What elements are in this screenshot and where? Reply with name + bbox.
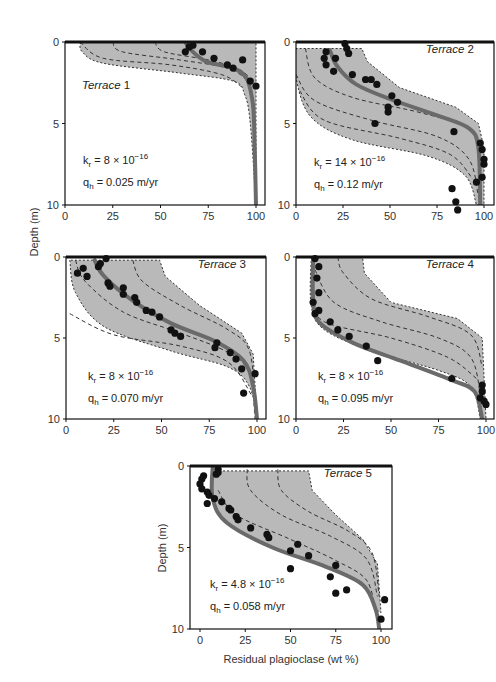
x-tick-label: 0	[197, 634, 203, 646]
qh-parameter: qh = 0.025 m/yr	[83, 176, 158, 191]
panel-terrace-5: 05100255075100Terrace 5kr = 4.8 × 10−16q…	[172, 460, 392, 646]
data-point	[287, 565, 294, 572]
x-tick-label: 100	[475, 210, 493, 222]
x-tick-label: 25	[337, 424, 349, 436]
data-point	[479, 388, 486, 395]
data-point	[310, 299, 317, 306]
data-point	[385, 108, 392, 115]
y-tick-label: 10	[278, 413, 290, 425]
panel-title: Terrace 3	[198, 258, 246, 270]
data-point	[321, 55, 328, 62]
data-point	[238, 365, 245, 372]
data-point	[186, 43, 193, 50]
figure-canvas: 05100255075100Terrace 1kr = 8 × 10−16qh …	[0, 0, 496, 682]
data-point	[388, 92, 395, 99]
x-tick-label: 50	[155, 424, 167, 436]
x-tick-label: 50	[384, 210, 396, 222]
x-tick-label: 25	[239, 634, 251, 646]
x-tick-label: 0	[293, 424, 299, 436]
data-point	[251, 370, 258, 377]
data-point	[327, 573, 334, 580]
panel-title: Terrace 5	[324, 467, 372, 479]
data-point	[247, 78, 254, 85]
data-point	[363, 343, 370, 350]
data-point	[311, 310, 318, 317]
data-point	[80, 265, 87, 272]
kr-parameter: kr = 8 × 10−16	[318, 368, 384, 385]
y-tick-label: 5	[54, 332, 60, 344]
data-point	[227, 349, 234, 356]
panel-terrace-1: 05100255075100Terrace 1kr = 8 × 10−16qh …	[47, 36, 265, 222]
kr-parameter: kr = 4.8 × 10−16	[210, 576, 285, 593]
data-point	[394, 99, 401, 106]
panel5-depth-axis-label: Depth (m)	[156, 524, 168, 573]
qh-parameter: qh = 0.058 m/yr	[210, 600, 285, 615]
data-point	[120, 284, 127, 291]
data-point	[454, 206, 461, 213]
data-point	[450, 128, 457, 135]
data-point	[199, 48, 206, 55]
data-point	[211, 344, 218, 351]
data-point	[83, 273, 90, 280]
data-point	[204, 500, 211, 507]
data-point	[377, 616, 384, 623]
data-point	[211, 495, 218, 502]
y-tick-label: 5	[284, 118, 290, 130]
y-tick-label: 5	[284, 332, 290, 344]
x-tick-label: 25	[108, 424, 120, 436]
data-point	[294, 541, 301, 548]
panel-title: Terrace 2	[426, 43, 474, 55]
data-point	[332, 55, 339, 62]
data-point	[373, 81, 380, 88]
data-point	[210, 55, 217, 62]
data-point	[343, 586, 350, 593]
y-tick-label: 10	[47, 199, 59, 211]
kr-parameter: kr = 8 × 10−16	[88, 368, 154, 385]
data-point	[148, 308, 155, 315]
data-point	[213, 471, 220, 478]
panel-terrace-3: 05100255075100Terrace 3kr = 8 × 10−16qh …	[48, 251, 266, 436]
data-point	[448, 185, 455, 192]
y-tick-label: 10	[278, 199, 290, 211]
data-point	[322, 61, 329, 68]
panel-title: Terrace 4	[426, 258, 475, 270]
x-tick-label: 100	[247, 210, 265, 222]
x-tick-label: 0	[293, 210, 299, 222]
x-axis-label: Residual plagioclase (wt %)	[223, 653, 358, 665]
data-point	[265, 534, 272, 541]
data-point	[381, 596, 388, 603]
data-point	[106, 283, 113, 290]
x-tick-label: 0	[62, 210, 68, 222]
x-tick-label: 75	[330, 634, 342, 646]
panel-title: Terrace 1	[82, 79, 130, 91]
data-point	[120, 291, 127, 298]
kr-parameter: kr = 8 × 10−16	[83, 152, 149, 169]
x-tick-label: 100	[372, 634, 390, 646]
model-envelope	[295, 49, 484, 206]
data-point	[479, 146, 486, 153]
data-point	[95, 263, 102, 270]
data-point	[448, 375, 455, 382]
data-point	[239, 56, 246, 63]
x-tick-label: 75	[203, 424, 215, 436]
data-point	[74, 270, 81, 277]
data-point	[234, 516, 241, 523]
data-point	[327, 318, 334, 325]
data-point	[227, 506, 234, 513]
data-point	[177, 333, 184, 340]
data-point	[371, 120, 378, 127]
data-point	[473, 179, 480, 186]
x-tick-label: 75	[431, 210, 443, 222]
x-tick-label: 100	[248, 424, 266, 436]
x-tick-label: 50	[284, 634, 296, 646]
data-point	[479, 381, 486, 388]
data-point	[332, 562, 339, 569]
data-point	[240, 389, 247, 396]
panel-terrace-2: 05100255075100Terrace 2kr = 14 × 10−16qh…	[278, 36, 494, 222]
y-tick-label: 10	[48, 413, 60, 425]
x-tick-label: 50	[385, 424, 397, 436]
qh-parameter: qh = 0.12 m/yr	[314, 178, 383, 193]
y-tick-label: 0	[178, 460, 184, 472]
panel-terrace-4: 05100255075100Terrace 4kr = 8 × 10−16qh …	[278, 251, 495, 436]
x-tick-label: 50	[154, 210, 166, 222]
